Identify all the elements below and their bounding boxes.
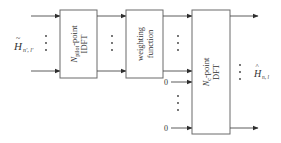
ofdm-channel-estimation-diagram: H ~ n′, l′ Npilot-point IDFT weighting f… (0, 0, 281, 143)
zero-input-label-top: 0 (164, 78, 168, 87)
input-ellipsis (45, 35, 47, 51)
output-label-sub: n, l (262, 74, 270, 80)
zero-input-label-bottom: 0 (164, 124, 168, 133)
output-ellipsis (239, 64, 241, 80)
weighting-output-ellipsis (177, 35, 179, 51)
input-label-sub: n′, l′ (23, 47, 34, 53)
weighting-block-line1: weighting (135, 26, 145, 61)
dft-block-line2: DFT (211, 63, 221, 80)
idft-output-ellipsis (111, 35, 113, 51)
idft-block-line2: IDFT (79, 34, 89, 54)
input-label-accent: ~ (16, 34, 21, 43)
weighting-function-block: weighting function (126, 10, 163, 78)
weighting-block-line2: function (145, 29, 155, 58)
idft-block: Npilot-point IDFT (60, 10, 97, 78)
dft-block: Nc-point DFT (192, 10, 230, 134)
input-label: H ~ n′, l′ (13, 34, 34, 53)
zero-input-ellipsis (177, 95, 179, 111)
output-label: H ^ n, l (253, 62, 270, 80)
